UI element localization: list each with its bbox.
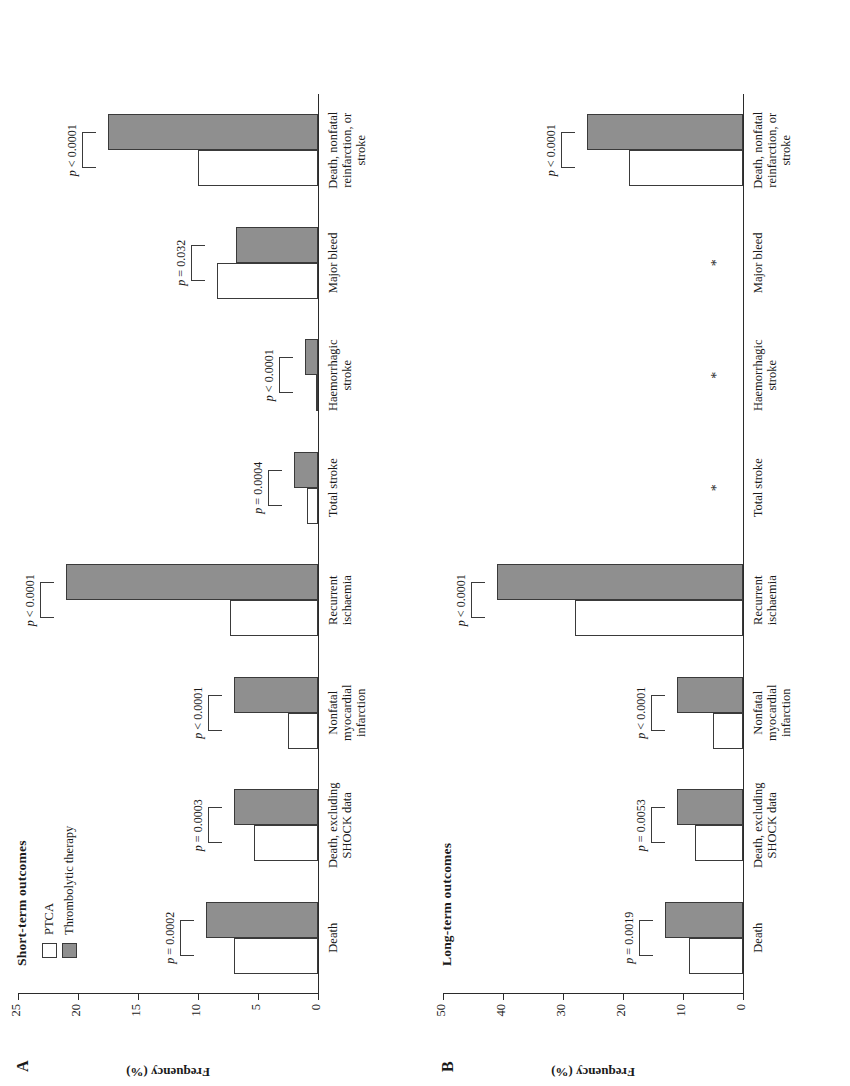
significance-bracket (561, 132, 575, 168)
bar-ptca (254, 825, 318, 861)
bar-ptca (288, 713, 318, 749)
p-value-label: p < 0.0001 (544, 124, 559, 176)
bar-ptca (230, 600, 318, 636)
bar-ptca (689, 938, 743, 974)
y-tick (198, 994, 199, 1000)
bar-ptca (234, 938, 318, 974)
bar-thrombolytic (677, 789, 743, 825)
rotated-figure: A Short-term outcomes PTCA Thrombolytic … (0, 0, 850, 1086)
p-value-label: p = 0.0019 (622, 912, 637, 964)
significance-bracket (40, 582, 54, 618)
category-label: Recurrent ischaemia (326, 550, 354, 651)
y-axis-label-a: Frequency (%) (126, 1064, 210, 1080)
y-tick-label: 10 (674, 1004, 689, 1038)
y-tick-label: 30 (554, 1004, 569, 1038)
category-label: Death, nonfatal reinfarction, or stroke (326, 100, 368, 201)
p-value-label: p = 0.032 (174, 240, 189, 286)
panel-b-letter: B (439, 1061, 457, 1072)
y-tick-label: 5 (249, 1004, 264, 1038)
bar-thrombolytic (305, 339, 318, 375)
category-label: Recurrent ischaemia (751, 550, 779, 651)
category-label: Total stroke (326, 438, 340, 539)
p-value-label: p = 0.0004 (251, 462, 266, 514)
category-label: Nonfatal myocardial infarction (326, 663, 368, 764)
y-tick (623, 994, 624, 1000)
bar-ptca (629, 150, 743, 186)
significance-bracket (279, 357, 293, 393)
y-tick-label: 25 (9, 1004, 24, 1038)
y-tick (18, 994, 19, 1000)
bar-thrombolytic (294, 452, 318, 488)
category-label: Haemorrhagic stroke (751, 325, 779, 426)
bar-thrombolytic (587, 114, 743, 150)
y-axis-b (443, 993, 743, 994)
significance-bracket (191, 245, 205, 281)
y-tick-label: 15 (129, 1004, 144, 1038)
y-tick-label: 10 (189, 1004, 204, 1038)
bar-ptca (198, 150, 318, 186)
bar-ptca (307, 488, 318, 524)
category-label: Nonfatal myocardial infarction (751, 663, 793, 764)
significance-bracket (82, 132, 96, 168)
p-value-label: p < 0.0001 (454, 574, 469, 626)
significance-bracket (180, 920, 194, 956)
category-label: Death, nonfatal reinfarction, or stroke (751, 100, 793, 201)
bar-thrombolytic (497, 564, 743, 600)
bar-ptca (713, 713, 743, 749)
category-label: Major bleed (751, 213, 765, 314)
category-label: Haemorrhagic stroke (326, 325, 354, 426)
bar-ptca (575, 600, 743, 636)
bar-thrombolytic (66, 564, 318, 600)
y-tick (563, 994, 564, 1000)
y-tick (743, 994, 744, 1000)
p-value-label: p < 0.0001 (65, 124, 80, 176)
significance-bracket (268, 470, 282, 506)
bar-thrombolytic (234, 789, 318, 825)
y-tick (683, 994, 684, 1000)
no-data-marker: * (709, 253, 725, 273)
y-tick (138, 994, 139, 1000)
bar-thrombolytic (108, 114, 318, 150)
bar-thrombolytic (234, 677, 318, 713)
bar-thrombolytic (665, 902, 743, 938)
y-tick (258, 994, 259, 1000)
significance-bracket (471, 582, 485, 618)
bar-thrombolytic (206, 902, 318, 938)
y-tick-label: 0 (734, 1004, 749, 1038)
no-data-marker: * (709, 365, 725, 385)
plot-area-a: 0510152025 Frequency (%) Deathp = 0.0002… (18, 94, 318, 994)
significance-bracket (208, 807, 222, 843)
y-tick-label: 0 (309, 1004, 324, 1038)
y-tick (503, 994, 504, 1000)
category-label: Death (326, 888, 340, 989)
p-value-label: p = 0.0002 (163, 912, 178, 964)
panel-a-letter: A (14, 1060, 32, 1072)
y-tick-label: 40 (494, 1004, 509, 1038)
p-value-label: p = 0.0053 (634, 799, 649, 851)
x-axis-a (318, 94, 319, 994)
significance-bracket (208, 695, 222, 731)
plot-area-b: 01020304050 Frequency (%) Deathp = 0.001… (443, 94, 743, 994)
category-label: Death, excluding SHOCK data (326, 775, 354, 876)
p-value-label: p = 0.0003 (191, 799, 206, 851)
category-label: Death, excluding SHOCK data (751, 775, 779, 876)
category-label: Death (751, 888, 765, 989)
p-value-label: p < 0.0001 (634, 687, 649, 739)
panel-a: A Short-term outcomes PTCA Thrombolytic … (0, 0, 425, 1086)
y-axis-a (18, 993, 318, 994)
p-value-label: p < 0.0001 (23, 574, 38, 626)
y-tick (318, 994, 319, 1000)
significance-bracket (651, 807, 665, 843)
y-tick-label: 20 (69, 1004, 84, 1038)
bar-ptca (695, 825, 743, 861)
y-tick (78, 994, 79, 1000)
bar-thrombolytic (236, 227, 318, 263)
panel-b: B Long-term outcomes 01020304050 Frequen… (425, 0, 850, 1086)
y-tick (443, 994, 444, 1000)
p-value-label: p < 0.0001 (191, 687, 206, 739)
y-tick-label: 20 (614, 1004, 629, 1038)
bar-ptca (316, 375, 318, 411)
significance-bracket (639, 920, 653, 956)
no-data-marker: * (709, 478, 725, 498)
y-axis-label-b: Frequency (%) (551, 1064, 635, 1080)
